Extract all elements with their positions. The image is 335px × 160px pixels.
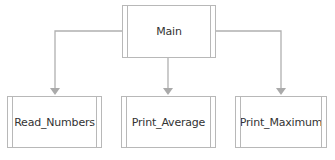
connector-main-to-read-numbers <box>55 31 122 88</box>
right-edge-bar <box>96 97 97 147</box>
print-maximum-label: Print_Maximum <box>240 116 322 129</box>
print-average-label: Print_Average <box>132 116 205 129</box>
print-maximum-module-box: Print_Maximum <box>235 96 327 148</box>
left-edge-bar <box>240 97 241 147</box>
read-numbers-module-box: Read_Numbers <box>7 96 102 148</box>
left-edge-bar <box>12 97 13 147</box>
left-edge-bar <box>126 97 127 147</box>
connector-main-to-print-maximum <box>215 31 281 88</box>
left-edge-bar <box>127 6 128 57</box>
read-numbers-label: Read_Numbers <box>14 116 95 129</box>
right-edge-bar <box>210 97 211 147</box>
right-edge-bar <box>321 97 322 147</box>
main-module-label: Main <box>156 25 181 38</box>
right-edge-bar <box>210 6 211 57</box>
arrowhead-icon <box>50 88 60 95</box>
arrowhead-icon <box>163 88 173 95</box>
main-module-box: Main <box>122 5 216 58</box>
arrowhead-icon <box>276 88 286 95</box>
print-average-module-box: Print_Average <box>121 96 216 148</box>
